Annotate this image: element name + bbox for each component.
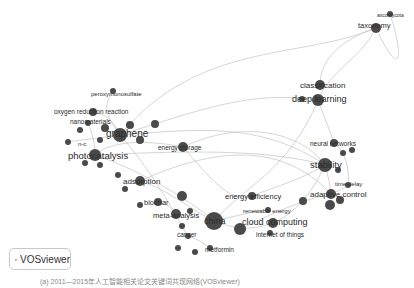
label-time-delay: time delay xyxy=(335,181,362,187)
label-ascomycota: ascomycota xyxy=(377,12,404,18)
label-adsorption: adsorption xyxy=(123,177,160,186)
label-energy-storage: energy storage xyxy=(158,144,202,152)
label-taxonomy: taxonomy xyxy=(358,21,391,30)
label-n-c: n-c xyxy=(78,141,86,147)
label-cancer: cancer xyxy=(177,231,197,238)
label-cloud-computing: cloud computing xyxy=(242,217,308,227)
label-internet-of-things: internet of things xyxy=(256,231,305,239)
vosviewer-label: VOSviewer xyxy=(20,254,70,265)
figure-caption: (a) 2011—2015年人工智能相关论文关键词共现网络(VOSviewer) xyxy=(40,276,380,288)
label-metformin: metformin xyxy=(205,246,234,253)
label-deep-learning: deep learning xyxy=(292,94,347,104)
label-adaptive-control: adaptive control xyxy=(310,190,367,199)
vosviewer-logo-icon xyxy=(15,254,17,265)
label-oxygen-reduction-reaction: oxygen reduction reaction xyxy=(54,108,129,116)
label-neural-networks: neural networks xyxy=(310,140,357,147)
node-n-c[interactable] xyxy=(65,139,71,145)
label-peroxymonosulfate: peroxymonosulfate xyxy=(91,91,142,97)
label-classification: classification xyxy=(300,81,345,90)
label-meta-analysis: meta-analysis xyxy=(153,211,200,220)
label-renewable-energy: renewable energy xyxy=(243,208,291,214)
label-china: china xyxy=(204,216,226,226)
label-energy-efficiency: energy efficiency xyxy=(225,192,281,201)
label-stability: stability xyxy=(310,159,342,170)
label-biochar: biochar xyxy=(144,198,169,207)
vosviewer-badge: VOSviewer xyxy=(9,248,71,270)
label-photocatalysis: photocatalysis xyxy=(68,150,128,161)
labels: peroxymonosulfate oxygen reduction react… xyxy=(54,12,404,253)
label-nanomaterials: nanomaterials xyxy=(70,118,112,125)
label-graphene: graphene xyxy=(106,128,149,139)
